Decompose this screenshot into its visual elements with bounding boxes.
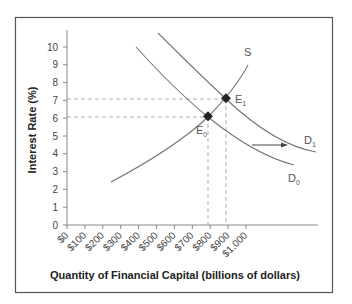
y-tick-label: 2 xyxy=(52,184,58,195)
y-tick-label: 0 xyxy=(52,220,58,231)
y-tick-label: 5 xyxy=(52,131,58,142)
y-tick-label: 10 xyxy=(47,42,59,53)
y-tick-label: 1 xyxy=(52,202,58,213)
label-s: S xyxy=(244,46,251,58)
x-axis-title: Quantity of Financial Capital (billions … xyxy=(50,269,300,281)
chart-border xyxy=(16,18,333,293)
y-tick-label: 6 xyxy=(52,113,58,124)
y-tick-label: 7 xyxy=(52,95,58,106)
y-tick-label: 4 xyxy=(52,148,58,159)
chart: 012345678910 $0$100$200$300$400$500$600$… xyxy=(0,0,352,304)
y-tick-label: 3 xyxy=(52,166,58,177)
y-axis-title: Interest Rate (%) xyxy=(26,86,38,173)
y-tick-label: 8 xyxy=(52,77,58,88)
y-tick-label: 9 xyxy=(52,59,58,70)
